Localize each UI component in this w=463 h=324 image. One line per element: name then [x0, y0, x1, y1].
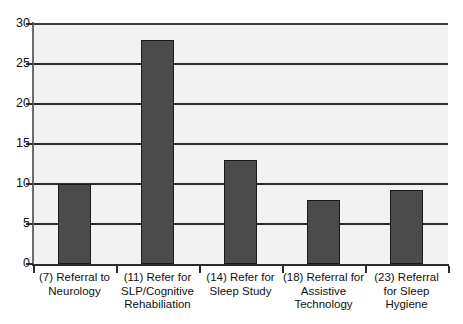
x-category-label-line: Neurology [33, 285, 116, 299]
x-category-label: (11) Refer forSLP/CognitiveRehabiliation [116, 271, 199, 312]
y-axis-tick-labels: 051015202530 [0, 0, 30, 324]
bar [58, 184, 91, 264]
gridline-25 [33, 63, 448, 65]
y-tick-mark-20 [26, 103, 33, 105]
y-tick-mark-15 [26, 143, 33, 145]
plot-area [33, 24, 448, 264]
x-category-label-line: (23) Referral [365, 271, 448, 285]
x-category-label-line: SLP/Cognitive [116, 285, 199, 299]
x-axis-line [32, 264, 449, 266]
x-category-label-line: Rehabiliation [116, 298, 199, 312]
x-category-label-line: (14) Refer for [199, 271, 282, 285]
y-tick-mark-10 [26, 183, 33, 185]
bar [390, 190, 423, 264]
x-axis-category-labels: (7) Referral toNeurology(11) Refer forSL… [33, 271, 448, 323]
bar-chart: 051015202530 (7) Referral toNeurology(11… [0, 0, 463, 324]
x-category-label-line: for Sleep [365, 285, 448, 299]
y-tick-mark-5 [26, 223, 33, 225]
x-category-label: (7) Referral toNeurology [33, 271, 116, 298]
y-tick-mark-25 [26, 63, 33, 65]
x-tick-mark-edge-5 [448, 266, 450, 273]
x-category-label-line: (7) Referral to [33, 271, 116, 285]
x-category-label-line: Technology [282, 298, 365, 312]
x-category-label-line: Assistive [282, 285, 365, 299]
x-category-label-line: (18) Referral for [282, 271, 365, 285]
x-category-label: (23) Referralfor SleepHygiene [365, 271, 448, 312]
bar [224, 160, 257, 264]
gridline-20 [33, 103, 448, 105]
bar [141, 40, 174, 264]
gridline-15 [33, 143, 448, 145]
x-category-label-line: (11) Refer for [116, 271, 199, 285]
y-tick-mark-0 [26, 263, 33, 265]
bar [307, 200, 340, 264]
gridline-30 [33, 23, 448, 25]
x-category-label-line: Hygiene [365, 298, 448, 312]
y-tick-mark-30 [26, 23, 33, 25]
x-category-label: (14) Refer forSleep Study [199, 271, 282, 298]
x-category-label: (18) Referral forAssistiveTechnology [282, 271, 365, 312]
x-category-label-line: Sleep Study [199, 285, 282, 299]
